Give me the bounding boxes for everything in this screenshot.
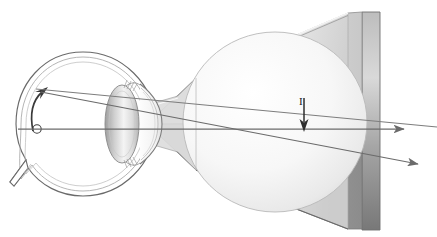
sphere-body bbox=[183, 32, 367, 212]
cornea bbox=[140, 84, 162, 164]
figure-canvas: I bbox=[0, 0, 437, 237]
object-sphere bbox=[183, 32, 367, 212]
object-label: I bbox=[299, 96, 303, 107]
eye-cross-section bbox=[10, 52, 162, 196]
eye-ray-diagram-svg bbox=[0, 0, 437, 237]
